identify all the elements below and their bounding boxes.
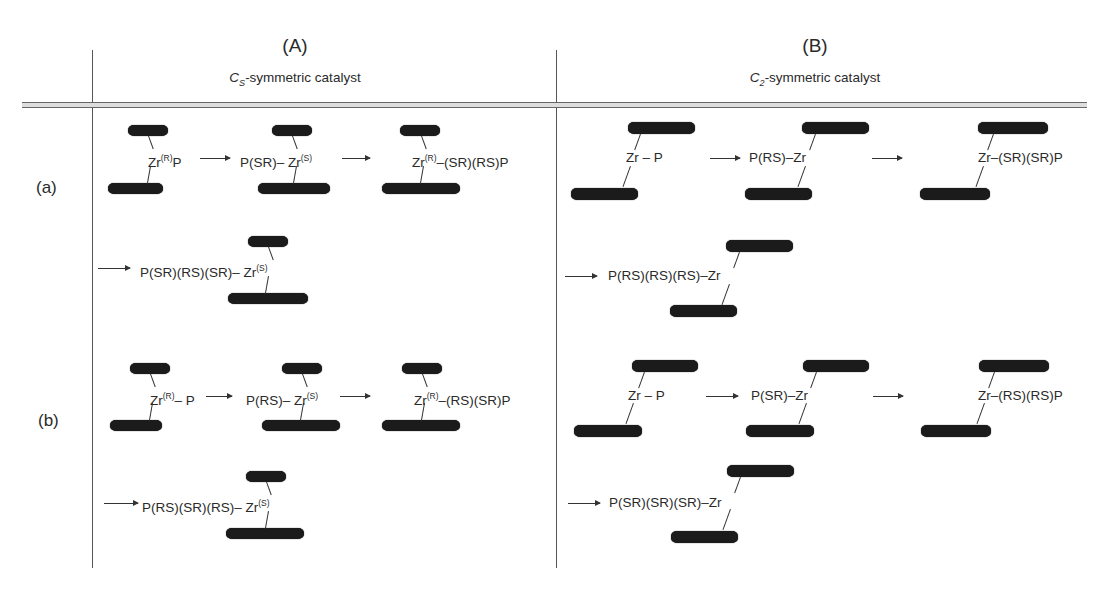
column-divider-middle	[556, 50, 557, 568]
species-label: P(RS)–Zr	[749, 150, 806, 166]
reaction-arrow	[200, 158, 230, 159]
ligand-bar-top	[400, 125, 440, 136]
reaction-arrow	[98, 268, 130, 269]
ligand-bar-top	[272, 125, 312, 136]
bond-line	[734, 477, 741, 493]
species-label: P(RS)(RS)(RS)–Zr	[608, 268, 721, 284]
header-double-rule	[22, 102, 1087, 108]
symmetry-symbol: C	[229, 70, 239, 85]
species-label: P(SR)–Zr	[751, 388, 808, 404]
species-label: Zr(R)–(SR)(RS)P	[412, 150, 509, 171]
reaction-arrow	[342, 158, 370, 159]
ligand-bar-top	[727, 465, 794, 477]
ligand-bar-bottom	[226, 528, 304, 539]
reaction-arrow	[206, 396, 232, 397]
column-a-subtitle: CS-symmetric catalyst	[175, 70, 415, 88]
reaction-arrow	[340, 396, 370, 397]
ligand-bar-top	[802, 122, 869, 134]
bond-line	[422, 374, 428, 388]
ligand-bar-top	[130, 363, 170, 374]
bond-line	[150, 374, 156, 388]
species-label: P(SR)(RS)(SR)– Zr(S)	[140, 260, 268, 281]
subtitle-text: -symmetric catalyst	[765, 70, 881, 85]
ligand-bar-bottom	[745, 188, 812, 200]
column-divider-left	[92, 50, 93, 568]
ligand-bar-bottom	[921, 425, 991, 437]
reaction-arrow	[568, 503, 600, 504]
bond-line	[622, 166, 631, 187]
ligand-bar-top	[246, 471, 286, 482]
ligand-bar-bottom	[228, 293, 308, 304]
species-label: P(SR)(SR)(SR)–Zr	[609, 495, 722, 511]
ligand-bar-bottom	[110, 420, 162, 431]
bond-line	[976, 403, 985, 424]
species-label: Zr(R)– P	[150, 388, 195, 409]
ligand-bar-bottom	[920, 188, 990, 200]
species-label: Zr–(RS)(RS)P	[978, 388, 1063, 404]
ligand-bar-top	[979, 360, 1049, 372]
ligand-bar-top	[628, 122, 695, 134]
reaction-arrow	[565, 276, 597, 277]
species-label: Zr–(SR)(SR)P	[978, 150, 1063, 166]
column-b-label: (B)	[775, 35, 855, 57]
ligand-bar-top	[248, 236, 288, 247]
bond-line	[810, 372, 817, 388]
bond-line	[302, 374, 308, 388]
ligand-bar-bottom	[108, 183, 163, 194]
bond-line	[421, 136, 427, 150]
ligand-bar-bottom	[258, 183, 330, 194]
ligand-bar-bottom	[382, 183, 460, 194]
species-label: Zr – P	[628, 388, 665, 404]
ligand-bar-bottom	[571, 188, 638, 200]
reaction-arrow	[710, 158, 740, 159]
bond-line	[638, 372, 645, 388]
ligand-bar-bottom	[262, 420, 340, 431]
species-label: P(RS)– Zr(S)	[246, 388, 318, 409]
ligand-bar-bottom	[671, 531, 738, 543]
species-label: P(RS)(SR)(RS)– Zr(S)	[142, 495, 270, 516]
column-b-subtitle: C2-symmetric catalyst	[695, 70, 935, 88]
bond-line	[987, 134, 994, 150]
bond-line	[148, 136, 154, 150]
ligand-bar-bottom	[574, 425, 642, 437]
column-a-label: (A)	[255, 35, 335, 57]
reaction-arrow	[872, 158, 902, 159]
bond-line	[988, 372, 995, 388]
species-label: Zr – P	[626, 150, 663, 166]
bond-line	[809, 134, 816, 150]
bond-line	[733, 252, 740, 268]
row-b-label: (b)	[38, 411, 59, 431]
ligand-bar-top	[282, 363, 322, 374]
ligand-bar-top	[978, 122, 1048, 134]
species-label: Zr(R)–(RS)(SR)P	[414, 388, 511, 409]
ligand-bar-top	[726, 240, 793, 252]
bond-line	[721, 284, 730, 305]
bond-line	[625, 403, 634, 424]
ligand-bar-top	[632, 360, 698, 372]
bond-line	[634, 134, 641, 150]
bond-line	[268, 247, 274, 261]
bond-line	[266, 482, 272, 496]
bond-line	[292, 136, 298, 150]
ligand-bar-top	[128, 125, 168, 136]
species-label: Zr(R)P	[148, 150, 182, 171]
bond-line	[722, 509, 731, 530]
bond-line	[798, 403, 807, 424]
reaction-arrow	[104, 503, 138, 504]
reaction-arrow	[706, 396, 738, 397]
ligand-bar-top	[803, 360, 869, 372]
ligand-bar-bottom	[670, 305, 737, 317]
ligand-bar-top	[402, 363, 442, 374]
row-a-label: (a)	[36, 178, 57, 198]
subtitle-text: -symmetric catalyst	[245, 70, 361, 85]
bond-line	[975, 166, 984, 187]
symmetry-symbol: C	[750, 70, 760, 85]
bond-line	[797, 166, 806, 187]
species-label: P(SR)– Zr(S)	[240, 150, 312, 171]
ligand-bar-bottom	[746, 425, 814, 437]
ligand-bar-bottom	[382, 420, 460, 431]
reaction-arrow	[873, 396, 903, 397]
